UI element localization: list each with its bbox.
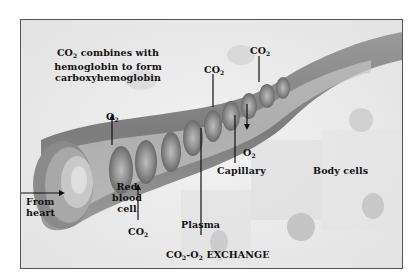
figure-title: CO2-O2 EXCHANGE	[166, 249, 270, 263]
label-co2-top: CO2	[250, 45, 270, 59]
label-o2-left: O2	[106, 111, 119, 125]
caption-line-1: CO2 combines with	[49, 47, 167, 61]
label-body-cells: Body cells	[313, 165, 368, 176]
label-co2-bottom: CO2	[128, 226, 148, 240]
label-plasma: Plasma	[181, 219, 220, 230]
label-o2-right: O2	[243, 147, 256, 161]
label-capillary: Capillary	[217, 165, 266, 176]
caption: CO2 combines with hemoglobin to form car…	[49, 47, 167, 83]
caption-line-3: carboxyhemoglobin	[49, 72, 167, 83]
caption-line-2: hemoglobin to form	[49, 61, 167, 72]
label-from-heart: From heart	[26, 196, 55, 218]
label-co2-mid: CO2	[204, 64, 224, 78]
diagram-frame: CO2 combines with hemoglobin to form car…	[20, 19, 403, 269]
label-red-blood-cell: Red blood cell	[112, 181, 142, 214]
